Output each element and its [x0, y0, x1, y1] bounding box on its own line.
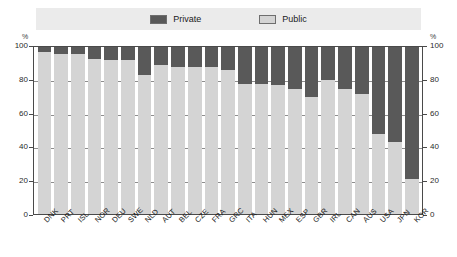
- bar-grc[interactable]: [221, 47, 235, 214]
- bar-segment-private: [205, 47, 219, 67]
- bar-aus[interactable]: [355, 47, 369, 214]
- y-tick-label-right-100: 100: [430, 42, 452, 50]
- bar-segment-public: [338, 89, 352, 214]
- x-label-slot: CZE: [186, 216, 203, 256]
- bar-segment-private: [188, 47, 202, 67]
- x-label-slot: GRC: [220, 216, 237, 256]
- y-tick-label-20: 20: [6, 177, 28, 185]
- bar-segment-private: [121, 47, 135, 60]
- bar-slot: [36, 47, 53, 214]
- bar-usa[interactable]: [372, 47, 386, 214]
- legend: Private Public: [36, 8, 421, 30]
- bar-swe[interactable]: [121, 47, 135, 214]
- bar-slot: [220, 47, 237, 214]
- bar-segment-public: [121, 60, 135, 214]
- legend-item-public: Public: [259, 15, 307, 24]
- bar-nor[interactable]: [88, 47, 102, 214]
- bar-slot: [270, 47, 287, 214]
- bar-slot: [303, 47, 320, 214]
- x-label-slot: ISL: [69, 216, 86, 256]
- bar-segment-public: [54, 54, 68, 214]
- x-label-slot: DNK: [35, 216, 52, 256]
- bar-segment-private: [54, 47, 68, 54]
- y-tick-mark-60: [29, 114, 33, 115]
- x-label-slot: DEU: [102, 216, 119, 256]
- y-tick-label-0: 0: [6, 211, 28, 219]
- bar-irl[interactable]: [321, 47, 335, 214]
- x-label-slot: NLD: [136, 216, 153, 256]
- x-label-slot: BEL: [169, 216, 186, 256]
- bar-hun[interactable]: [255, 47, 269, 214]
- bar-bel[interactable]: [171, 47, 185, 214]
- bar-can[interactable]: [338, 47, 352, 214]
- bar-ita[interactable]: [238, 47, 252, 214]
- bar-segment-public: [305, 97, 319, 214]
- bar-isl[interactable]: [71, 47, 85, 214]
- bar-slot: [170, 47, 187, 214]
- bar-segment-public: [221, 70, 235, 214]
- bar-segment-private: [138, 47, 152, 75]
- y-tick-mark-60: [423, 114, 427, 115]
- bar-slot: [353, 47, 370, 214]
- bar-segment-public: [271, 85, 285, 214]
- bar-segment-private: [154, 47, 168, 65]
- x-label-slot: USA: [371, 216, 388, 256]
- bar-segment-public: [205, 67, 219, 214]
- x-label-slot: HUN: [253, 216, 270, 256]
- bar-prt[interactable]: [54, 47, 68, 214]
- bar-segment-public: [171, 67, 185, 214]
- bar-slot: [320, 47, 337, 214]
- bar-kor[interactable]: [405, 47, 419, 214]
- bar-segment-private: [288, 47, 302, 89]
- bar-segment-private: [171, 47, 185, 67]
- bar-segment-private: [321, 47, 335, 80]
- y-tick-mark-40: [423, 147, 427, 148]
- x-label-slot: AUT: [152, 216, 169, 256]
- bar-segment-private: [255, 47, 269, 84]
- bar-segment-public: [372, 134, 386, 214]
- bar-segment-private: [271, 47, 285, 85]
- y-tick-mark-80: [29, 80, 33, 81]
- y-tick-mark-100: [423, 46, 427, 47]
- y-tick-mark-20: [423, 181, 427, 182]
- bar-slot: [86, 47, 103, 214]
- x-label-slot: AUS: [354, 216, 371, 256]
- bar-segment-private: [388, 47, 402, 142]
- y-axis-unit-right: %: [430, 33, 436, 40]
- chart-root: Private Public % % 100806040200 10080604…: [0, 0, 457, 257]
- bar-segment-public: [238, 84, 252, 214]
- legend-label-private: Private: [173, 15, 201, 24]
- bar-segment-private: [221, 47, 235, 70]
- bar-segment-private: [104, 47, 118, 60]
- bar-deu[interactable]: [104, 47, 118, 214]
- bar-series-container: [34, 47, 422, 214]
- bar-jpn[interactable]: [388, 47, 402, 214]
- bar-fra[interactable]: [205, 47, 219, 214]
- bar-segment-private: [238, 47, 252, 84]
- bar-esp[interactable]: [288, 47, 302, 214]
- bar-aut[interactable]: [154, 47, 168, 214]
- bar-segment-public: [388, 142, 402, 214]
- y-tick-label-100: 100: [6, 42, 28, 50]
- bar-cze[interactable]: [188, 47, 202, 214]
- legend-swatch-public: [259, 15, 276, 24]
- bar-dnk[interactable]: [38, 47, 52, 214]
- x-axis-labels: DNKPRTISLNORDEUSWENLDAUTBELCZEFRAGRCITAH…: [33, 216, 423, 256]
- bar-nld[interactable]: [138, 47, 152, 214]
- y-tick-mark-80: [423, 80, 427, 81]
- bar-slot: [337, 47, 354, 214]
- bar-segment-public: [355, 94, 369, 214]
- y-tick-label-right-60: 60: [430, 110, 452, 118]
- y-tick-label-right-0: 0: [430, 211, 452, 219]
- bar-segment-private: [71, 47, 85, 54]
- bar-segment-public: [154, 65, 168, 214]
- bar-slot: [387, 47, 404, 214]
- bar-gbr[interactable]: [305, 47, 319, 214]
- y-tick-label-80: 80: [6, 76, 28, 84]
- bar-segment-public: [188, 67, 202, 214]
- x-label-slot: PRT: [52, 216, 69, 256]
- bar-slot: [153, 47, 170, 214]
- bar-mex[interactable]: [271, 47, 285, 214]
- bar-slot: [253, 47, 270, 214]
- y-tick-label-right-20: 20: [430, 177, 452, 185]
